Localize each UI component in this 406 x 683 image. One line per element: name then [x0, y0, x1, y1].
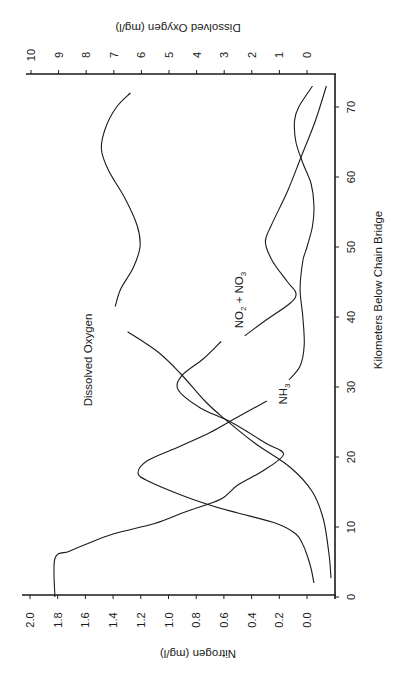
kilometer-tick-label: 20 [345, 451, 357, 463]
dissolved-oxygen-tick-label: 1 [273, 52, 285, 58]
dissolved-oxygen-tick-label: 4 [191, 52, 203, 58]
kilometer-tick-label: 70 [345, 101, 357, 113]
nitrogen-tick-label: 0.2 [273, 612, 285, 627]
nitrogen-tick-label: 1.8 [52, 612, 64, 627]
dissolved-oxygen-tick-label: 10 [25, 49, 37, 61]
dissolved-oxygen-tick-label: 6 [135, 52, 147, 58]
left-axis-title: Nitrogen (mg/l) [160, 648, 236, 660]
dissolved-oxygen-tick-label: 7 [108, 52, 120, 58]
dissolved-oxygen-tick-label: 3 [218, 52, 230, 58]
nitrogen-tick-label: 2.0 [24, 612, 36, 627]
nitrogen-tick-label: 0.0 [301, 612, 313, 627]
chart-figure: 0.00.20.40.60.81.01.21.41.61.82.0 012345… [0, 0, 406, 683]
nitrogen-tick-label: 0.8 [190, 612, 202, 627]
dissolved-oxygen-tick-label: 2 [246, 52, 258, 58]
chart-canvas: 0.00.20.40.60.81.01.21.41.61.82.0 012345… [0, 0, 406, 683]
kilometer-tick-label: 40 [345, 311, 357, 323]
dissolved-oxygen-tick-label: 5 [163, 52, 175, 58]
nitrogen-tick-label: 1.6 [79, 612, 91, 627]
label-dissolved-oxygen: Dissolved Oxygen [82, 314, 94, 407]
kilometer-tick-label: 60 [345, 171, 357, 183]
nitrogen-tick-label: 1.4 [107, 612, 119, 627]
dissolved-oxygen-tick-label: 8 [80, 52, 92, 58]
kilometer-tick-label: 50 [345, 241, 357, 253]
dissolved-oxygen-tick-label: 0 [301, 52, 313, 58]
kilometer-tick-label: 30 [345, 381, 357, 393]
dissolved-oxygen-tick-label: 9 [53, 52, 65, 58]
kilometer-tick-label: 0 [345, 594, 357, 600]
x-axis-title: Kilometers Below Chain Bridge [372, 211, 384, 370]
nitrogen-tick-label: 1.0 [163, 612, 175, 627]
nitrogen-tick-label: 0.6 [218, 612, 230, 627]
right-axis-title: Dissolved Oxygen (mg/l) [115, 22, 240, 34]
nitrogen-tick-label: 1.2 [135, 612, 147, 627]
kilometer-tick-label: 10 [345, 521, 357, 533]
nitrogen-tick-label: 0.4 [246, 612, 258, 627]
